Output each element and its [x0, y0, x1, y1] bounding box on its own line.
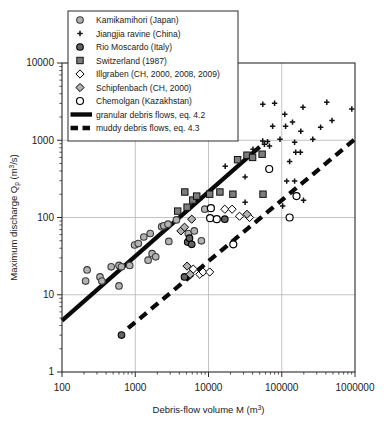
- legend-label: Chemolgan (Kazakhstan): [96, 96, 192, 106]
- y-tick-label: 100: [37, 212, 54, 223]
- y-tick-label: 1000: [32, 135, 55, 146]
- y-tick-label: 10: [43, 289, 55, 300]
- legend-label: Illgraben (CH, 2000, 2008, 2009): [96, 69, 220, 79]
- discharge-volume-scatter-chart: 1001000100001000001000000110100100010000…: [0, 0, 388, 439]
- x-tick-label: 1000: [124, 382, 147, 393]
- x-tick-label: 1000000: [336, 382, 375, 393]
- x-tick-label: 100: [54, 382, 71, 393]
- debris-flow-discharge-figure: 1001000100001000001000000110100100010000…: [0, 0, 388, 439]
- chart-legend: Kamikamihori (Japan)Jiangjia ravine (Chi…: [68, 11, 238, 141]
- y-tick-label: 1: [48, 366, 54, 377]
- y-tick-label: 10000: [26, 57, 54, 68]
- legend-label: muddy debris flows, eq. 4.3: [96, 123, 200, 133]
- legend-label: Jiangjia ravine (China): [96, 29, 181, 39]
- x-tick-label: 10000: [195, 382, 223, 393]
- legend-label: Schipfenbach (CH, 2000): [96, 83, 192, 93]
- legend-label: Switzerland (1987): [96, 56, 167, 66]
- legend-label: Rio Moscardo (Italy): [96, 42, 172, 52]
- x-axis-title: Debris-flow volume M (m3): [153, 404, 265, 416]
- x-tick-label: 100000: [265, 382, 299, 393]
- legend-item: Illgraben (CH, 2000, 2008, 2009): [76, 69, 220, 79]
- legend-label: Kamikamihori (Japan): [96, 15, 179, 25]
- legend-label: granular debris flows, eq. 4.2: [96, 110, 205, 120]
